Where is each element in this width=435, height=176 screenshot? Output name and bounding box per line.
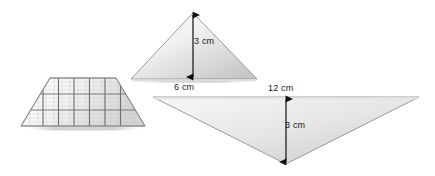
large-triangle-base-label: 12 cm xyxy=(268,83,294,94)
small-triangle-height-label: 3 cm xyxy=(194,36,214,47)
figure-canvas: 3 cm 6 cm 12 cm 3 cm xyxy=(0,0,435,176)
trapezoid-shadow xyxy=(20,126,148,130)
upright-triangle xyxy=(131,13,257,82)
large-triangle-height-label: 3 cm xyxy=(285,120,305,131)
small-triangle-base-label: 6 cm xyxy=(174,82,194,93)
geometry-illustration xyxy=(0,0,435,176)
